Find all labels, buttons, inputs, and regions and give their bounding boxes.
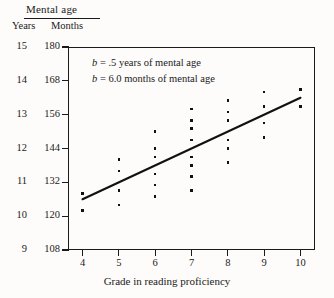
data-point — [227, 99, 230, 102]
data-point — [190, 108, 193, 111]
y-axis-label-months: 156 — [34, 108, 60, 119]
x-axis-label: 9 — [253, 257, 275, 268]
data-point — [81, 209, 84, 212]
x-axis-label: 10 — [289, 257, 311, 268]
x-axis-title: Grade in reading proficiency — [0, 275, 334, 287]
y-axis-label-years: 10 — [11, 209, 27, 220]
x-axis-tick — [264, 250, 265, 256]
y-axis-tick-months — [62, 249, 69, 250]
data-point — [190, 119, 193, 122]
data-point — [227, 111, 230, 114]
y-axis-label-months: 120 — [34, 209, 60, 220]
data-point — [190, 156, 193, 159]
x-axis-tick — [191, 250, 192, 256]
chart-title: Mental age — [26, 3, 77, 15]
x-axis-label: 8 — [217, 257, 239, 268]
data-point — [227, 147, 230, 150]
y-axis-tick-months — [62, 182, 69, 183]
title-underline — [24, 18, 100, 19]
data-point — [190, 164, 193, 167]
y-axis-label-months: 132 — [34, 175, 60, 186]
data-point — [263, 122, 266, 125]
data-point — [154, 147, 157, 150]
y-axis-tick-months — [62, 148, 69, 149]
y-axis-tick-months — [62, 114, 69, 115]
data-point — [154, 130, 157, 133]
data-point — [263, 91, 266, 94]
y-axis-label-months: 168 — [34, 74, 60, 85]
data-point — [299, 88, 302, 91]
data-point — [227, 161, 230, 164]
y-axis-label-years: 13 — [11, 108, 27, 119]
data-point — [154, 156, 157, 159]
x-axis-tick — [155, 250, 156, 256]
data-point — [118, 170, 121, 173]
data-point — [118, 158, 121, 161]
data-point — [190, 189, 193, 192]
y-axis-label-years: 11 — [11, 175, 27, 186]
x-axis-label: 4 — [72, 257, 94, 268]
y-axis-label-years: 9 — [11, 243, 27, 254]
data-point — [190, 175, 193, 178]
data-point — [118, 189, 121, 192]
x-axis-label: 5 — [108, 257, 130, 268]
annotation-slope-months: b = 6.0 months of mental age — [92, 73, 215, 84]
annotation-slope-years: b = .5 years of mental age — [92, 57, 201, 68]
scatter-plot-figure: Mental age Years Months 1801516814156131… — [0, 0, 334, 298]
y-axis-tick-months — [62, 80, 69, 81]
data-point — [154, 195, 157, 198]
data-point — [227, 119, 230, 122]
data-point — [299, 105, 302, 108]
data-point — [227, 139, 230, 142]
x-axis-tick — [118, 250, 119, 256]
y-axis-label-months: 108 — [34, 243, 60, 254]
data-point — [190, 139, 193, 142]
data-point — [81, 192, 84, 195]
x-axis-label: 6 — [144, 257, 166, 268]
data-point — [190, 127, 193, 130]
data-point — [263, 136, 266, 139]
y-axis-label-years: 15 — [11, 40, 27, 51]
x-axis-tick — [300, 250, 301, 256]
annotation-slope-years-text: = .5 years of mental age — [97, 57, 201, 68]
y-axis-label-months: 144 — [34, 142, 60, 153]
y-axis-label-months: 180 — [34, 40, 60, 51]
x-axis-label: 7 — [181, 257, 203, 268]
data-point — [263, 105, 266, 108]
x-axis-tick — [82, 250, 83, 256]
data-point — [118, 204, 121, 207]
y-axis-tick-months — [62, 216, 69, 217]
y-axis-months-header: Months — [51, 20, 83, 31]
data-point — [154, 173, 157, 176]
y-axis-label-years: 12 — [11, 142, 27, 153]
x-axis-tick — [227, 250, 228, 256]
data-point — [154, 184, 157, 187]
y-axis-label-years: 14 — [11, 74, 27, 85]
y-axis-tick-months — [62, 46, 69, 47]
y-axis-years-header: Years — [12, 20, 35, 31]
annotation-slope-months-text: = 6.0 months of mental age — [97, 73, 215, 84]
